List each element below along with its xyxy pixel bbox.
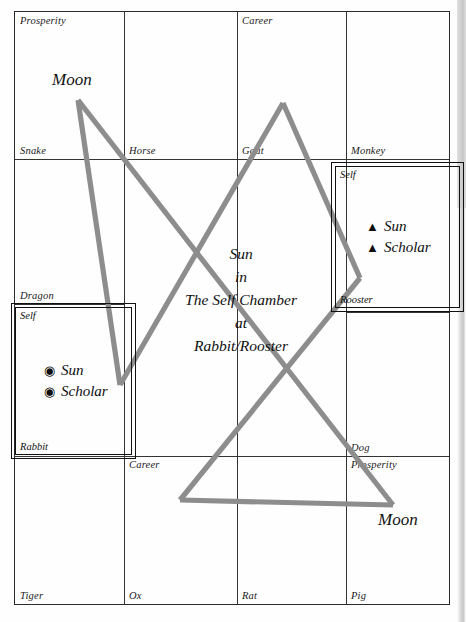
center-line-3: The Self Chamber xyxy=(168,289,314,312)
cell-label-career-top: Career xyxy=(242,15,273,26)
bullseye-circle-icon: ◉ xyxy=(43,385,55,398)
star-row-scholar[interactable]: ▲ Scholar xyxy=(366,237,431,258)
cell-label-tiger: Tiger xyxy=(20,590,43,601)
self-chamber-rabbit-star-list: ◉ Sun ◉ Scholar xyxy=(43,360,108,403)
self-chamber-rooster-foot: Rooster xyxy=(340,294,373,305)
cell-monkey[interactable]: Monkey xyxy=(346,12,449,159)
cell-label-snake: Snake xyxy=(20,145,46,156)
star-row-sun[interactable]: ▲ Sun xyxy=(366,216,431,237)
star-name-sun: Sun xyxy=(61,360,84,381)
star-name-sun: Sun xyxy=(384,216,407,237)
self-chamber-rabbit[interactable]: Self Rabbit ◉ Sun ◉ Scholar xyxy=(11,303,136,459)
cell-goat[interactable]: Career Goat xyxy=(237,12,346,159)
cell-dog[interactable]: Dog xyxy=(346,312,449,456)
cell-label-rat: Rat xyxy=(242,590,257,601)
self-chamber-rabbit-label: Self xyxy=(20,310,36,321)
cell-label-pig: Pig xyxy=(351,590,366,601)
center-line-2: in xyxy=(168,266,314,289)
filled-triangle-icon: ▲ xyxy=(366,220,378,233)
self-chamber-rooster[interactable]: Self Rooster ▲ Sun ▲ Scholar xyxy=(331,162,464,312)
self-chamber-rooster-label: Self xyxy=(340,169,356,180)
cell-dragon[interactable]: Dragon xyxy=(15,159,124,304)
cell-label-monkey: Monkey xyxy=(351,145,385,156)
diagram-canvas: Prosperity Snake Horse Career Goat Monke… xyxy=(0,0,466,622)
filled-triangle-icon: ▲ xyxy=(366,241,378,254)
cell-rat[interactable]: Rat xyxy=(237,456,346,604)
self-chamber-rooster-star-list: ▲ Sun ▲ Scholar xyxy=(366,216,431,259)
cell-label-career-bottom: Career xyxy=(129,459,160,470)
center-annotation: Sun in The Self Chamber at Rabbit/Rooste… xyxy=(168,243,314,358)
cell-label-horse: Horse xyxy=(129,145,156,156)
cell-label-dragon: Dragon xyxy=(20,290,54,301)
star-row-sun[interactable]: ◉ Sun xyxy=(43,360,108,381)
cell-label-prosperity-bottom: Prosperity xyxy=(351,459,397,470)
star-row-scholar[interactable]: ◉ Scholar xyxy=(43,381,108,402)
center-line-1: Sun xyxy=(168,243,314,266)
cell-label-prosperity-top: Prosperity xyxy=(20,15,66,26)
star-name-scholar: Scholar xyxy=(384,237,431,258)
cell-label-dog: Dog xyxy=(351,442,370,453)
cell-horse[interactable]: Horse xyxy=(124,12,237,159)
bullseye-circle-icon: ◉ xyxy=(43,364,55,377)
cell-tiger[interactable]: Tiger xyxy=(15,456,124,604)
center-line-5: Rabbit/Rooster xyxy=(168,335,314,358)
self-chamber-rabbit-foot: Rabbit xyxy=(20,441,48,452)
moon-label-bottom: Moon xyxy=(378,510,418,530)
cell-label-ox: Ox xyxy=(129,590,142,601)
center-line-4: at xyxy=(168,312,314,335)
cell-pig[interactable]: Prosperity Pig xyxy=(346,456,449,604)
cell-ox[interactable]: Career Ox xyxy=(124,456,237,604)
star-name-scholar: Scholar xyxy=(61,381,108,402)
cell-label-goat: Goat xyxy=(242,145,264,156)
moon-label-top: Moon xyxy=(52,70,92,90)
